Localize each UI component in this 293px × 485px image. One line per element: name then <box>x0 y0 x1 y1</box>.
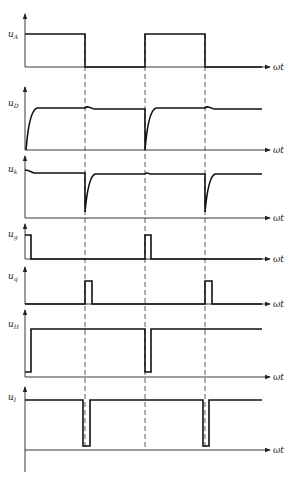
x-label-wt: ωt <box>273 254 284 264</box>
x-label-wt: ωt <box>273 145 284 155</box>
waveform-uH <box>25 329 262 372</box>
x-label-wt: ωt <box>273 213 284 223</box>
x-label-wt: ωt <box>273 445 284 455</box>
waveform-uA <box>25 34 262 67</box>
label-ug: ug <box>8 229 18 241</box>
panel-ug: ug ωt <box>8 224 284 264</box>
label-uI: uI <box>8 392 17 403</box>
x-label-wt: ωt <box>273 62 284 72</box>
label-uD: uD <box>8 98 19 109</box>
panel-uA: uA ωt <box>8 14 284 72</box>
label-uk: uk <box>8 164 18 175</box>
label-uH: uH <box>8 319 20 330</box>
panel-uq: uq ωt <box>8 267 284 309</box>
panel-uk: uk ωt <box>8 156 284 223</box>
waveform-uI <box>25 400 262 446</box>
label-uq: uq <box>8 271 18 283</box>
waveform-uk <box>25 170 262 212</box>
x-label-wt: ωt <box>273 299 284 309</box>
label-uA: uA <box>8 29 19 40</box>
waveform-uD <box>26 107 262 150</box>
waveform-diagram: uA ωt uD ωt uk ωt ug ωt uq ωt uH <box>0 0 293 485</box>
panel-uD: uD ωt <box>8 87 284 155</box>
x-label-wt: ωt <box>273 372 284 382</box>
panel-uH: uH ωt <box>8 310 284 382</box>
panel-uI: uI ωt <box>8 387 284 472</box>
waveform-ug <box>25 235 262 259</box>
waveform-uq <box>25 281 262 304</box>
